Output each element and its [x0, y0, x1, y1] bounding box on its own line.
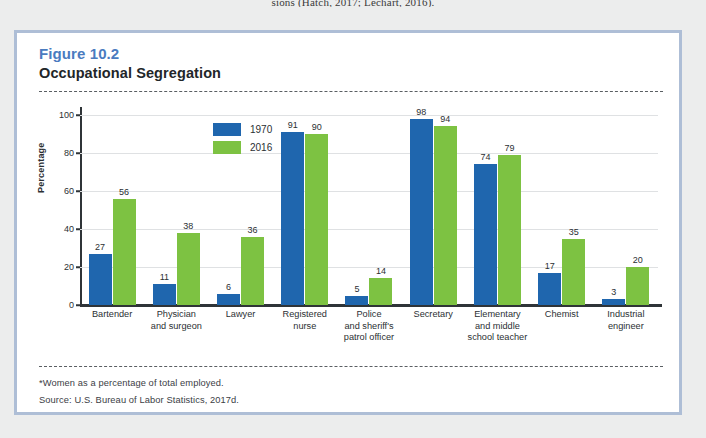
legend-swatch-2016: [213, 141, 241, 154]
category-label: Physicianand surgeon: [144, 309, 208, 344]
category-label: Bartender: [80, 309, 144, 344]
bar-group: 1138: [144, 115, 208, 305]
category-label: Lawyer: [208, 309, 272, 344]
legend-label-2016: 2016: [250, 142, 272, 153]
bar-value-label: 90: [312, 122, 322, 132]
bars: 2756: [80, 115, 144, 305]
category-label-line: Bartender: [81, 309, 143, 321]
bar-value-label: 79: [504, 143, 514, 153]
category-label-line: engineer: [595, 321, 657, 333]
figure-footnote: *Women as a percentage of total employed…: [39, 378, 224, 388]
category-label-line: Elementary: [466, 309, 528, 321]
bar-2016: 79: [498, 155, 521, 305]
bar-value-label: 17: [545, 261, 555, 271]
category-label-line: Police: [338, 309, 400, 321]
category-label-line: and surgeon: [145, 321, 207, 333]
y-axis-tick-label: 100: [59, 110, 74, 120]
bar-group: 7479: [465, 115, 529, 305]
bars: 1735: [530, 115, 594, 305]
category-label-line: nurse: [274, 321, 336, 333]
y-axis-tick-label: 40: [64, 224, 74, 234]
page-body-text-fragment: sions (Hatch, 2017; Lechart, 2016).: [0, 0, 706, 7]
category-label-line: Industrial: [595, 309, 657, 321]
bar-1970: 17: [538, 273, 561, 305]
category-label: Policeand sheriff'spatrol officer: [337, 309, 401, 344]
y-axis-title: Percentage: [36, 142, 46, 193]
plot-area: 020406080100 275611386369190514989474791…: [80, 115, 658, 305]
bar-1970: 74: [474, 164, 497, 305]
bar-1970: 91: [281, 132, 304, 305]
bar-value-label: 56: [119, 187, 129, 197]
bar-1970: 5: [345, 296, 368, 306]
category-label-line: Registered: [274, 309, 336, 321]
legend-item-2016: 2016: [213, 141, 272, 154]
figure-box: Figure 10.2 Occupational Segregation Per…: [14, 30, 682, 415]
figure-title: Occupational Segregation: [39, 65, 221, 81]
bar-group: 1735: [530, 115, 594, 305]
category-label-line: and middle: [466, 321, 528, 333]
bar-value-label: 27: [95, 242, 105, 252]
bar-groups: 275611386369190514989474791735320: [80, 115, 658, 305]
bars: 9894: [401, 115, 465, 305]
bar-2016: 56: [113, 199, 136, 305]
bar-1970: 3: [602, 299, 625, 305]
bar-value-label: 3: [611, 287, 616, 297]
chart-legend: 1970 2016: [213, 123, 272, 154]
divider-bottom: [39, 366, 663, 367]
bar-chart: Percentage 020406080100 2756113863691905…: [35, 101, 665, 359]
category-label: Registerednurse: [273, 309, 337, 344]
bars: 1138: [144, 115, 208, 305]
bar-2016: 35: [562, 239, 585, 306]
bar-value-label: 5: [354, 284, 359, 294]
category-label: Secretary: [401, 309, 465, 344]
category-label-line: Secretary: [402, 309, 464, 321]
bar-group: 9190: [273, 115, 337, 305]
bar-1970: 27: [89, 254, 112, 305]
category-label: Chemist: [530, 309, 594, 344]
y-axis-tick-label: 80: [64, 148, 74, 158]
y-axis-tick-label: 20: [64, 262, 74, 272]
bar-value-label: 91: [288, 120, 298, 130]
legend-item-1970: 1970: [213, 123, 272, 136]
category-label-line: patrol officer: [338, 332, 400, 344]
category-label: Industrialengineer: [594, 309, 658, 344]
bars: 9190: [273, 115, 337, 305]
category-label-line: Physician: [145, 309, 207, 321]
y-axis-tick-label: 0: [69, 300, 74, 310]
bar-2016: 20: [626, 267, 649, 305]
bar-1970: 98: [410, 119, 433, 305]
bar-2016: 38: [177, 233, 200, 305]
bar-group: 320: [594, 115, 658, 305]
figure-number: Figure 10.2: [39, 45, 119, 62]
bar-value-label: 14: [376, 266, 386, 276]
bars: 7479: [465, 115, 529, 305]
bar-group: 514: [337, 115, 401, 305]
bar-2016: 90: [305, 134, 328, 305]
bar-value-label: 36: [248, 225, 258, 235]
bar-2016: 36: [241, 237, 264, 305]
legend-label-1970: 1970: [250, 124, 272, 135]
legend-swatch-1970: [213, 123, 241, 136]
bar-2016: 14: [369, 278, 392, 305]
y-axis-tick-label: 60: [64, 186, 74, 196]
divider-top: [39, 91, 663, 92]
category-label-line: Lawyer: [209, 309, 271, 321]
figure-source: Source: U.S. Bureau of Labor Statistics,…: [39, 395, 239, 405]
bar-value-label: 98: [416, 107, 426, 117]
category-label: Elementaryand middleschool teacher: [465, 309, 529, 344]
bar-value-label: 38: [183, 221, 193, 231]
bar-value-label: 11: [160, 272, 169, 282]
x-axis-category-labels: BartenderPhysicianand surgeonLawyerRegis…: [80, 309, 658, 344]
bars: 514: [337, 115, 401, 305]
bar-group: 2756: [80, 115, 144, 305]
bar-value-label: 94: [440, 114, 450, 124]
bar-value-label: 35: [569, 227, 579, 237]
category-label-line: and sheriff's: [338, 321, 400, 333]
bar-group: 9894: [401, 115, 465, 305]
bars: 320: [594, 115, 658, 305]
bar-value-label: 20: [633, 255, 643, 265]
bar-value-label: 74: [480, 152, 490, 162]
bar-value-label: 6: [226, 282, 231, 292]
category-label-line: school teacher: [466, 332, 528, 344]
bar-2016: 94: [434, 126, 457, 305]
